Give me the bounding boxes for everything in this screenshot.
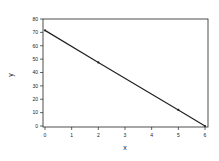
- x-axis-ticks: 0123456: [44, 127, 207, 138]
- y-tick-label: 50: [32, 56, 38, 62]
- y-axis-ticks: 01020304050607080: [32, 16, 43, 129]
- y-tick-label: 40: [32, 69, 38, 75]
- x-axis-label: x: [123, 144, 127, 151]
- data-series: [44, 29, 206, 127]
- x-tick-label: 1: [70, 132, 73, 138]
- data-point: [44, 29, 46, 31]
- x-tick-label: 2: [97, 132, 100, 138]
- data-point: [177, 109, 179, 111]
- y-tick-label: 30: [32, 83, 38, 89]
- line-chart: 01020304050607080 0123456 x y: [0, 0, 219, 161]
- y-tick-label: 80: [32, 16, 38, 22]
- x-tick-label: 6: [204, 132, 207, 138]
- x-tick-label: 3: [124, 132, 127, 138]
- plot-frame: [43, 19, 208, 127]
- y-tick-label: 60: [32, 43, 38, 49]
- data-point: [204, 125, 206, 127]
- x-tick-label: 4: [150, 132, 153, 138]
- series-line: [45, 30, 205, 126]
- x-tick-label: 0: [44, 132, 47, 138]
- y-tick-label: 10: [32, 109, 38, 115]
- x-tick-label: 5: [177, 132, 180, 138]
- data-point: [97, 61, 99, 63]
- y-axis-label: y: [7, 73, 15, 77]
- y-tick-label: 0: [35, 123, 38, 129]
- y-tick-label: 70: [32, 29, 38, 35]
- y-tick-label: 20: [32, 96, 38, 102]
